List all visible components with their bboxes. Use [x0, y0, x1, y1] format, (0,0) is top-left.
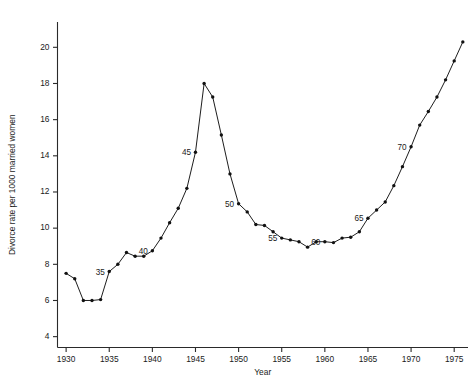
- x-tick-label: 1955: [272, 354, 291, 364]
- y-axis-title: Divorce rate per 1000 married women: [7, 114, 17, 255]
- data-point: [185, 187, 188, 190]
- data-point: [133, 254, 136, 257]
- data-point: [177, 207, 180, 210]
- data-point: [358, 230, 361, 233]
- data-point: [64, 272, 67, 275]
- data-point: [159, 236, 162, 239]
- y-tick-label: 16: [40, 114, 50, 124]
- data-point: [194, 151, 197, 154]
- year-annotation-label: 70: [398, 143, 408, 152]
- data-point: [366, 217, 369, 220]
- year-annotation-label: 65: [354, 214, 364, 223]
- y-tick-label: 20: [40, 42, 50, 52]
- data-point: [349, 235, 352, 238]
- data-point: [202, 82, 205, 85]
- data-point: [82, 299, 85, 302]
- data-point: [108, 270, 111, 273]
- data-point: [384, 200, 387, 203]
- data-point: [116, 263, 119, 266]
- divorce-rate-line-chart: 468101214161820 193019351940194519501955…: [0, 0, 476, 383]
- chart-background: [0, 0, 476, 383]
- y-tick-label: 14: [40, 150, 50, 160]
- data-point: [125, 251, 128, 254]
- y-tick-label: 12: [40, 186, 50, 196]
- x-tick-label: 1945: [186, 354, 205, 364]
- data-point: [427, 110, 430, 113]
- data-point: [237, 202, 240, 205]
- year-annotation-label: 45: [182, 148, 192, 157]
- data-point: [211, 95, 214, 98]
- year-annotation-label: 55: [268, 234, 278, 243]
- year-annotation-label: 60: [311, 238, 321, 247]
- data-point: [99, 298, 102, 301]
- data-point: [418, 123, 421, 126]
- y-tick-label: 6: [45, 295, 50, 305]
- year-annotation-label: 40: [139, 247, 149, 256]
- y-tick-label: 4: [45, 331, 50, 341]
- data-point: [228, 172, 231, 175]
- data-point: [90, 299, 93, 302]
- data-point: [375, 208, 378, 211]
- year-annotation-label: 35: [96, 268, 106, 277]
- y-tick-label: 10: [40, 222, 50, 232]
- data-point: [220, 133, 223, 136]
- data-point: [332, 241, 335, 244]
- data-point: [453, 59, 456, 62]
- data-point: [297, 240, 300, 243]
- x-tick-label: 1965: [359, 354, 378, 364]
- x-tick-label: 1935: [100, 354, 119, 364]
- y-tick-label: 18: [40, 78, 50, 88]
- x-tick-label: 1950: [229, 354, 248, 364]
- data-point: [306, 245, 309, 248]
- y-tick-label: 8: [45, 259, 50, 269]
- data-point: [280, 236, 283, 239]
- chart-canvas: 468101214161820 193019351940194519501955…: [0, 0, 476, 383]
- data-point: [435, 95, 438, 98]
- data-point: [168, 221, 171, 224]
- data-point: [271, 230, 274, 233]
- data-point: [401, 165, 404, 168]
- x-tick-label: 1960: [316, 354, 335, 364]
- x-tick-label: 1975: [445, 354, 464, 364]
- data-point: [340, 236, 343, 239]
- data-point: [151, 249, 154, 252]
- data-point: [246, 210, 249, 213]
- data-point: [254, 223, 257, 226]
- data-point: [73, 277, 76, 280]
- data-point: [392, 184, 395, 187]
- data-point: [289, 238, 292, 241]
- year-annotation-label: 50: [225, 200, 235, 209]
- data-point: [323, 240, 326, 243]
- x-axis-title: Year: [254, 367, 271, 377]
- x-tick-label: 1940: [143, 354, 162, 364]
- x-tick-label: 1930: [57, 354, 76, 364]
- data-point: [409, 145, 412, 148]
- x-tick-label: 1970: [402, 354, 421, 364]
- data-point: [444, 78, 447, 81]
- data-point: [461, 40, 464, 43]
- data-point: [263, 224, 266, 227]
